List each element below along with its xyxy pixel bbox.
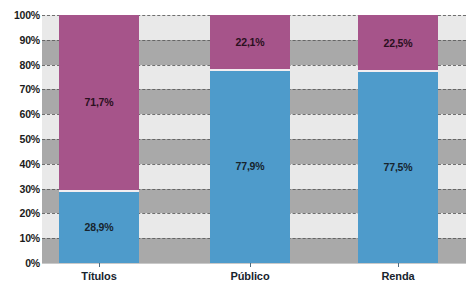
y-tick-label: 100% xyxy=(0,9,40,21)
x-tick xyxy=(398,263,399,267)
y-tick-label: 70% xyxy=(0,83,40,95)
x-tick xyxy=(250,263,251,267)
y-tick-label: 30% xyxy=(0,183,40,195)
segment-separator xyxy=(210,69,290,71)
bar-segment-top[interactable]: 22,5% xyxy=(358,15,438,71)
bar-segment-bottom[interactable]: 28,9% xyxy=(59,191,139,263)
bar-segment-top[interactable]: 22,1% xyxy=(210,15,290,70)
x-axis: TítulosPúblicoRenda xyxy=(42,263,466,297)
x-category-label: Público xyxy=(230,270,269,282)
bar-segment-label: 71,7% xyxy=(85,96,114,108)
bar-segment-label: 22,5% xyxy=(384,37,413,49)
bar-segment-bottom[interactable]: 77,5% xyxy=(358,71,438,263)
y-axis: 0%10%20%30%40%50%60%70%80%90%100% xyxy=(0,0,40,297)
bars-layer: 71,7%28,9%22,1%77,9%22,5%77,5% xyxy=(42,15,466,263)
y-tick-label: 90% xyxy=(0,34,40,46)
bar-segment-label: 77,5% xyxy=(384,161,413,173)
bar-segment-label: 28,9% xyxy=(85,221,114,233)
y-tick-label: 10% xyxy=(0,232,40,244)
bar-segment-label: 77,9% xyxy=(236,160,265,172)
plot-area: 71,7%28,9%22,1%77,9%22,5%77,5% xyxy=(42,15,466,263)
segment-separator xyxy=(59,190,139,192)
segment-separator xyxy=(358,70,438,72)
bar-group[interactable]: 22,1%77,9% xyxy=(210,15,290,263)
x-category-label: Títulos xyxy=(81,270,116,282)
y-tick-label: 20% xyxy=(0,207,40,219)
bar-group[interactable]: 22,5%77,5% xyxy=(358,15,438,263)
x-category-label: Renda xyxy=(381,270,414,282)
bar-group[interactable]: 71,7%28,9% xyxy=(59,15,139,263)
stacked-bar-chart: 0%10%20%30%40%50%60%70%80%90%100% 71,7%2… xyxy=(0,0,466,297)
y-tick-label: 0% xyxy=(0,257,40,269)
y-tick-label: 50% xyxy=(0,133,40,145)
bar-segment-top[interactable]: 71,7% xyxy=(59,15,139,191)
y-tick-label: 40% xyxy=(0,158,40,170)
y-tick-label: 60% xyxy=(0,108,40,120)
bar-segment-label: 22,1% xyxy=(236,36,265,48)
y-tick-label: 80% xyxy=(0,59,40,71)
x-tick xyxy=(99,263,100,267)
bar-segment-bottom[interactable]: 77,9% xyxy=(210,70,290,263)
